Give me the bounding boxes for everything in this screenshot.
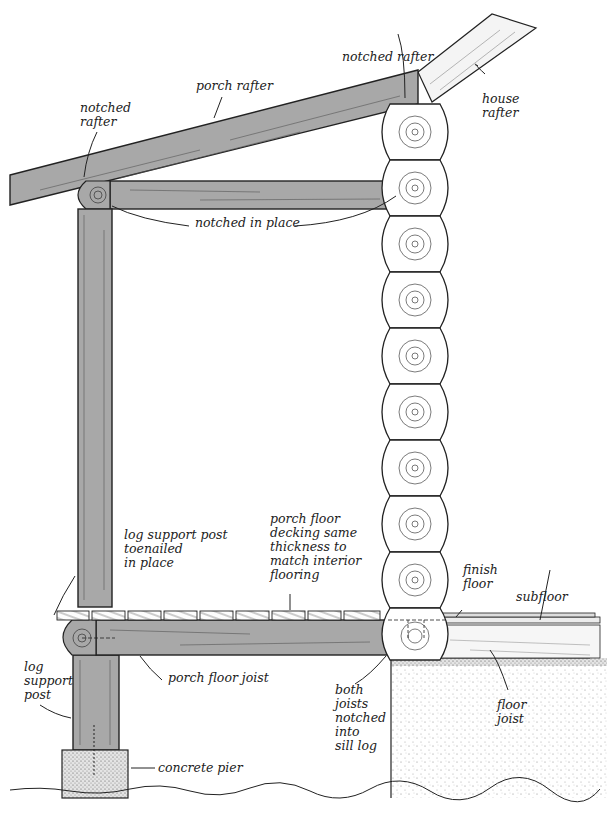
label-notched-rafter-top: notched rafter	[342, 50, 433, 64]
porch-floor-joist	[63, 620, 388, 655]
wall-log	[382, 552, 448, 608]
wall-log	[382, 440, 448, 496]
label-house-rafter: house rafter	[482, 92, 519, 120]
porch-floor-decking	[57, 611, 380, 620]
label-subfloor: subfloor	[516, 590, 568, 604]
wall-log	[382, 328, 448, 384]
wall-log	[382, 384, 448, 440]
label-porch-floor-decking: porch floor decking same thickness to ma…	[270, 512, 361, 582]
porch-beam	[78, 181, 392, 209]
wall-log	[382, 216, 448, 272]
label-porch-floor-joist: porch floor joist	[168, 671, 269, 685]
label-porch-rafter: porch rafter	[196, 79, 273, 93]
house-rafter	[418, 14, 536, 102]
wall-log	[382, 272, 448, 328]
label-concrete-pier: concrete pier	[158, 761, 243, 775]
subfloor	[440, 617, 600, 623]
label-log-support-post: log support post	[24, 660, 73, 702]
label-floor-joist: floor joist	[497, 698, 526, 726]
label-notched-rafter-left: notched rafter	[80, 101, 131, 129]
label-notched-in-place: notched in place	[195, 216, 300, 230]
wall-log	[382, 104, 448, 160]
wall-log	[382, 160, 448, 216]
label-finish-floor: finish floor	[463, 563, 498, 591]
log-wall	[382, 104, 448, 660]
label-log-support-post-toenailed: log support post toenailed in place	[124, 528, 227, 570]
sill-log	[382, 608, 448, 660]
label-both-joists-notched: both joists notched into sill log	[335, 683, 386, 753]
finish-floor	[440, 613, 595, 617]
interior-floor	[440, 613, 600, 658]
wall-log	[382, 496, 448, 552]
log-support-post	[73, 209, 119, 750]
foundation	[391, 658, 607, 798]
